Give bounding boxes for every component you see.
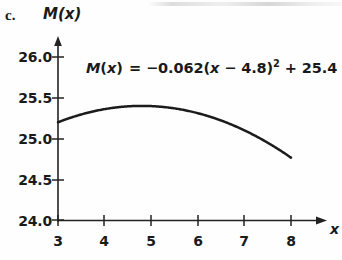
y-axis-arrow-icon (54, 36, 62, 46)
quadratic-curve (58, 106, 291, 158)
x-axis-arrow-icon (316, 216, 327, 224)
plot-area (0, 0, 342, 260)
figure-container: c. M(x) x M(x) = −0.062(x − 4.8)2 + 25.4… (0, 0, 342, 260)
